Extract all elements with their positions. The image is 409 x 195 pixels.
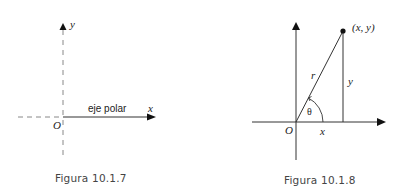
polar-axis-label: eje polar — [88, 104, 126, 114]
figure-caption: Figura 10.1.7 — [55, 172, 127, 184]
x-arrowhead-icon — [377, 118, 386, 126]
polar-axis-arrowhead-icon — [147, 114, 156, 121]
figure-10-1-8: (x, y) r y θ O x Figura 10.1.8 — [200, 0, 409, 195]
point-label: (x, y) — [352, 22, 375, 33]
polar-axis-diagram — [0, 0, 200, 195]
point-marker — [340, 28, 345, 33]
x-leg-label: x — [320, 126, 325, 137]
figure-caption: Figura 10.1.8 — [284, 174, 356, 186]
y-axis-label: y — [70, 19, 75, 30]
y-arrowhead-icon — [292, 22, 300, 30]
theta-label: θ — [307, 107, 312, 117]
origin-label: O — [285, 125, 293, 136]
figure-10-1-7: y x eje polar O Figura 10.1.7 — [0, 0, 200, 195]
origin-label: O — [53, 120, 61, 131]
radius-label: r — [311, 70, 315, 81]
cartesian-polar-diagram — [200, 0, 409, 195]
y-leg-label: y — [348, 76, 353, 87]
x-axis-label: x — [148, 103, 153, 114]
y-arrowhead-icon — [60, 23, 67, 30]
